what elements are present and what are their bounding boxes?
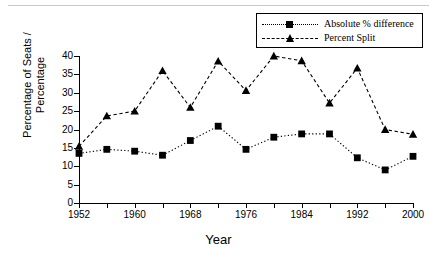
data-point-square [270,134,277,141]
data-point-square [131,148,138,155]
x-tick-label-1952: 1952 [59,209,99,220]
square-marker-icon [286,21,293,28]
data-point-square [159,152,166,159]
y-tick-label-30: 30 [47,88,73,98]
x-tick [302,203,303,208]
x-tick [218,203,219,208]
plot-area: 0510152025303540 19521960196819761984199… [79,56,413,203]
chart-legend: Absolute % difference Percent Split [256,13,423,48]
x-tick [274,203,275,208]
y-tick-label-35: 35 [47,69,73,79]
data-point-square [187,137,194,144]
data-point-triangle [353,64,361,72]
data-point-triangle [381,125,389,133]
data-point-triangle [75,142,83,150]
chart-figure: Absolute % difference Percent Split Perc… [0,0,437,263]
x-tick [357,203,358,208]
series-line-1 [79,56,413,146]
top-divider [8,5,429,6]
x-tick-label-1976: 1976 [226,209,266,220]
data-point-square [326,131,333,138]
y-tick-label-15: 15 [47,143,73,153]
legend-item-percent-split: Percent Split [262,31,418,45]
y-axis-title-line1: Percentage of Seats / [21,5,34,165]
series-layer [79,56,413,203]
y-tick-label-25: 25 [47,106,73,116]
data-point-triangle [270,52,278,60]
x-tick [330,203,331,208]
y-tick-label-40: 40 [47,51,73,61]
data-point-square [215,123,222,130]
x-tick [190,203,191,208]
x-tick-label-1960: 1960 [115,209,155,220]
x-tick-label-1968: 1968 [170,209,210,220]
y-tick-label-5: 5 [47,180,73,190]
data-point-square [354,154,361,161]
y-tick-label-10: 10 [47,161,73,171]
legend-key-triangle [262,32,318,44]
x-tick [163,203,164,208]
data-point-square [298,131,305,138]
legend-item-absolute-difference: Absolute % difference [262,17,418,31]
data-point-triangle [158,67,166,75]
x-tick [107,203,108,208]
x-tick [135,203,136,208]
x-tick [246,203,247,208]
data-point-triangle [297,57,305,65]
x-tick [413,203,414,208]
data-point-square [382,167,389,174]
x-tick-label-1984: 1984 [282,209,322,220]
x-tick [385,203,386,208]
y-axis-title: Percentage of Seats / Percentage [21,5,47,165]
data-point-triangle [130,107,138,115]
x-tick [79,203,80,208]
y-axis-title-line2: Percentage [34,5,47,165]
legend-label-percent-split: Percent Split [318,32,375,44]
legend-key-square [262,18,318,30]
y-tick-label-20: 20 [47,125,73,135]
y-tick-label-0: 0 [47,198,73,208]
data-point-square [410,153,417,160]
x-tick-label-2000: 2000 [393,209,433,220]
data-point-square [103,146,110,153]
data-point-triangle [214,57,222,65]
legend-label-absolute-difference: Absolute % difference [318,18,414,30]
x-axis-title: Year [0,232,437,247]
data-point-square [243,146,250,153]
data-point-triangle [409,130,417,138]
data-point-square [76,150,83,157]
triangle-marker-icon [286,34,294,42]
x-tick-label-1992: 1992 [337,209,377,220]
data-point-triangle [186,103,194,111]
